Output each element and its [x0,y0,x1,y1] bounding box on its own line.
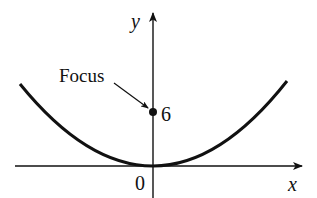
parabola-diagram: y Focus 6 0 x [0,0,317,198]
origin-label: 0 [135,172,145,194]
y-axis-label: y [129,10,140,33]
focus-value-label: 6 [161,103,171,125]
focus-label: Focus [59,65,104,86]
focus-point [149,108,157,116]
focus-arrow [114,83,148,108]
x-axis-label: x [287,173,297,195]
